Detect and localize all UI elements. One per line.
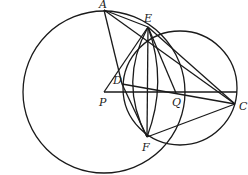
- segment-fc: [147, 104, 235, 137]
- label-p: P: [98, 96, 107, 109]
- label-e: E: [143, 12, 152, 25]
- label-a: A: [98, 0, 107, 11]
- label-c: C: [239, 100, 248, 113]
- arc-ef-left: [133, 27, 148, 137]
- segment-ae: [104, 10, 148, 27]
- label-q: Q: [172, 96, 181, 109]
- arc-ef-right: [147, 27, 158, 137]
- diagram-svg: A E D P Q C F: [0, 0, 248, 175]
- geometry-diagram: A E D P Q C F: [0, 0, 248, 175]
- segment-ef: [147, 27, 148, 137]
- label-f: F: [141, 141, 150, 154]
- segment-eq: [148, 27, 176, 93]
- label-d: D: [112, 74, 122, 87]
- circle-q: [123, 31, 237, 145]
